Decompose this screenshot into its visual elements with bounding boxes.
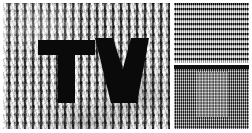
grid-inset-rectangle [196, 72, 229, 117]
halftone-density-shading [3, 3, 170, 129]
scanline-stripe-panel [174, 3, 249, 63]
test-pattern-image [0, 0, 252, 133]
fine-grid-panel [174, 65, 249, 129]
grid-top-dark-band [174, 65, 249, 69]
halftone-tv-panel [3, 3, 170, 129]
